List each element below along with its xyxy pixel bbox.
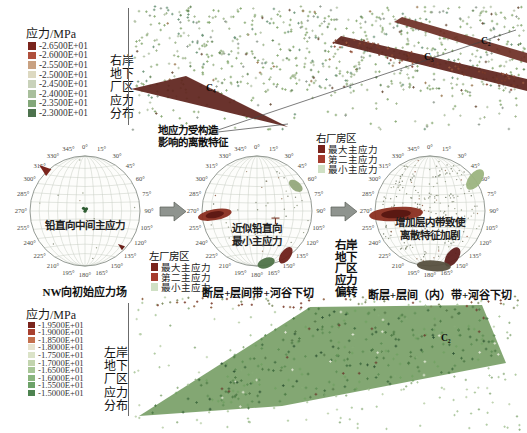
- stereonet-speckle: [404, 242, 405, 243]
- stereonet-speckle: [265, 205, 266, 206]
- stereonet-speckle: [449, 195, 450, 196]
- stereonet-speckle: [265, 180, 266, 181]
- stereonet-speckle: [384, 196, 385, 197]
- tick-label: 165°: [95, 269, 108, 276]
- tick-label: 45°: [471, 162, 481, 169]
- colorbar-swatch: [28, 329, 35, 335]
- stereonet-speckle: [396, 180, 397, 181]
- stereonet-speckle: [417, 204, 418, 205]
- stereonet-speckle: [82, 192, 83, 193]
- stereonet1-caption: NW向初始应力场: [15, 283, 155, 299]
- stereonet-speckle: [267, 202, 268, 203]
- deflection-line: 右岸: [333, 240, 359, 252]
- colorbar-entry: -2.3000E+01: [28, 108, 88, 118]
- stereonet-speckle: [405, 248, 406, 249]
- stereonet-speckle: [215, 195, 216, 196]
- stereonet-speckle: [476, 205, 477, 206]
- colorbar-swatch: [28, 71, 36, 79]
- stereonet-speckle: [437, 195, 438, 196]
- stereonet-speckle: [400, 178, 401, 179]
- stereonet-speckle: [473, 212, 474, 213]
- colorbar-value: -2.3000E+01: [39, 108, 88, 118]
- stereonet-speckle: [412, 247, 413, 248]
- annotation-line: 地应力受构造: [158, 125, 228, 137]
- stereonet-speckle: [402, 174, 403, 175]
- stereonet-speckle: [434, 196, 435, 197]
- legend-swatch: [318, 165, 325, 173]
- shear-zone-label: C₄: [206, 83, 216, 93]
- stereonet-speckle: [286, 190, 287, 191]
- stereonet-speckle: [398, 185, 399, 186]
- stereonet-speckle: [396, 196, 397, 197]
- tick-label: 30°: [284, 152, 294, 159]
- tick-label: 0°: [254, 143, 260, 150]
- stereonet-speckle: [285, 216, 286, 217]
- stereonet-speckle: [419, 198, 420, 199]
- stereonet-speckle: [430, 212, 431, 213]
- stereonet-speckle: [383, 201, 384, 202]
- stereonet-speckle: [301, 200, 302, 201]
- stereonet-speckle: [278, 177, 279, 178]
- tick-label: 225°: [206, 252, 219, 259]
- stereonet-speckle: [438, 246, 439, 247]
- colorbar-swatch: [28, 382, 35, 388]
- stereonet-speckle: [96, 247, 97, 248]
- stereonet-speckle: [446, 172, 447, 173]
- stereonet-speckle: [281, 198, 282, 199]
- colorbar-swatch: [28, 337, 35, 343]
- stereonet-speckle: [399, 182, 400, 183]
- stereonet-speckle: [279, 172, 280, 173]
- stereonet-speckle: [445, 170, 446, 171]
- stereonet-speckle: [237, 209, 238, 210]
- tick-label: 150°: [111, 262, 124, 269]
- stereonet-speckle: [419, 195, 420, 196]
- deflection-line: 偏转: [333, 287, 359, 299]
- stereonet-speckle: [452, 195, 453, 196]
- legend-swatch: [151, 263, 158, 271]
- stereonet-speckle: [450, 193, 451, 194]
- stereonet-speckle: [295, 197, 296, 198]
- stereonet-speckle: [444, 242, 445, 243]
- legend-entry: 最小主应力: [151, 282, 211, 292]
- stereonet-speckle: [284, 209, 285, 210]
- stereonet-speckle: [445, 181, 446, 182]
- stereonet-speckle: [436, 199, 437, 200]
- stereonet-speckle: [461, 209, 462, 210]
- stereonet-speckle: [436, 166, 437, 167]
- figure-root: 0°15°30°45°60°75°90°105°120°135°150°165°…: [0, 0, 527, 433]
- tick-label: 120°: [134, 239, 147, 246]
- stereonet-speckle: [385, 198, 386, 199]
- tick-label: 300°: [368, 175, 381, 182]
- stereonet-speckle: [429, 193, 430, 194]
- stereonet-speckle: [397, 187, 398, 188]
- legend-swatch: [151, 283, 158, 291]
- stereonet-speckle: [402, 181, 403, 182]
- stereonet-speckle: [474, 206, 475, 207]
- shear-zone-label: C₂: [481, 36, 491, 46]
- stereonet-speckle: [399, 190, 400, 191]
- divider-line-top: [128, 8, 129, 125]
- stereonet-speckle: [246, 171, 247, 172]
- stereonet-speckle: [406, 193, 407, 194]
- shear-zone-label: C₃: [424, 52, 434, 62]
- stereonet-speckle: [414, 186, 415, 187]
- colorbar-swatch: [28, 322, 35, 328]
- colorbar-value: -2.4500E+01: [39, 79, 88, 89]
- stereonet-speckle: [410, 179, 411, 180]
- tick-label: 75°: [142, 190, 152, 197]
- stereonet-speckle: [440, 210, 441, 211]
- stereonet-speckle: [395, 183, 396, 184]
- tick-label: 75°: [487, 190, 497, 197]
- tick-label: 285°: [17, 190, 30, 197]
- colorbar-swatch: [28, 52, 36, 60]
- side-label-line: 厂区: [102, 373, 130, 386]
- stereonet-speckle: [417, 207, 418, 208]
- colorbar-entry: -2.4500E+01: [28, 79, 88, 89]
- stereonet-speckle: [456, 179, 457, 180]
- stereonet-speckle: [436, 195, 437, 196]
- tick-label: 135°: [469, 252, 482, 259]
- stereonet-speckle: [448, 205, 449, 206]
- tick-label: 330°: [392, 152, 405, 159]
- tick-label: 330°: [219, 152, 232, 159]
- stereonet-speckle: [412, 173, 413, 174]
